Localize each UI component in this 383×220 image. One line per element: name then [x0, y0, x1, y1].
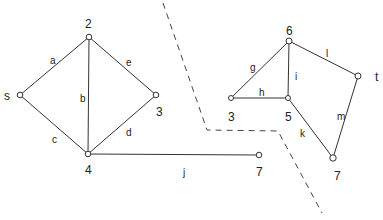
- edge-label-c: c: [52, 134, 57, 145]
- node-label-5: 5: [285, 110, 292, 124]
- edge-l: [289, 41, 358, 76]
- node-label-6: 6: [286, 24, 293, 38]
- edge-label-e: e: [126, 57, 132, 68]
- node-label-s: s: [4, 89, 10, 103]
- edge-label-b: b: [80, 93, 86, 104]
- edge-label-d: d: [126, 127, 132, 138]
- edge-k: [288, 98, 333, 158]
- node-6: [286, 38, 292, 44]
- node-7-left: [256, 152, 262, 158]
- edge-c: [20, 95, 88, 154]
- graph-diagram: s 2 3 4 7 6 t 3 5 7 a b c d e j g h i l …: [0, 0, 383, 220]
- node-t: [355, 73, 361, 79]
- edge-label-i: i: [295, 71, 297, 82]
- edge-label-m: m: [337, 111, 345, 122]
- edge-label-k: k: [300, 128, 306, 139]
- node-3-right: [229, 96, 234, 101]
- node-label-2: 2: [85, 17, 92, 31]
- node-label-3-right: 3: [228, 110, 235, 124]
- edge-j: [88, 154, 259, 155]
- node-s: [17, 92, 23, 98]
- node-label-7-left: 7: [256, 165, 263, 179]
- node-7-right: [330, 155, 336, 161]
- edge-label-j: j: [182, 167, 185, 178]
- node-4: [85, 151, 91, 157]
- node-2: [86, 34, 92, 40]
- edge-e: [89, 37, 156, 95]
- node-label-3-left: 3: [156, 105, 163, 119]
- node-label-7-right: 7: [334, 169, 341, 183]
- edge-label-g: g: [250, 62, 256, 73]
- edge-b: [88, 37, 89, 154]
- edge-i: [288, 41, 289, 98]
- node-5: [286, 96, 291, 101]
- edge-d: [88, 95, 156, 154]
- cut-line: [163, 3, 322, 213]
- edge-a: [20, 37, 89, 95]
- edge-label-l: l: [326, 48, 328, 59]
- edge-label-h: h: [259, 87, 265, 98]
- node-label-4: 4: [85, 163, 92, 177]
- node-label-t: t: [375, 70, 379, 84]
- node-3-left: [153, 92, 159, 98]
- edge-label-a: a: [50, 55, 56, 66]
